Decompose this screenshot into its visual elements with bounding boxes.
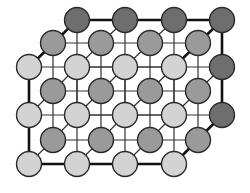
lattice-svg — [0, 0, 250, 193]
atom-middle — [89, 79, 114, 104]
atom-middle — [41, 128, 66, 153]
atom-back — [210, 103, 235, 128]
atom-middle — [89, 31, 114, 56]
atom-back — [113, 8, 138, 33]
atom-middle — [186, 79, 211, 104]
atom-middle — [186, 128, 211, 153]
atom-front — [162, 55, 187, 80]
atom-front — [65, 55, 90, 80]
atom-front — [162, 103, 187, 128]
atom-middle — [138, 128, 163, 153]
atom-middle — [41, 31, 66, 56]
atom-front — [113, 55, 138, 80]
atom-front — [113, 152, 138, 177]
atom-back — [210, 55, 235, 80]
atom-middle — [186, 31, 211, 56]
atom-front — [17, 55, 42, 80]
atom-back — [162, 8, 187, 33]
atom-middle — [138, 79, 163, 104]
atom-middle — [89, 128, 114, 153]
atom-front — [17, 152, 42, 177]
atom-back — [210, 8, 235, 33]
atom-back — [65, 8, 90, 33]
lattice-diagram — [0, 0, 250, 193]
atom-front — [65, 103, 90, 128]
atom-front — [17, 103, 42, 128]
atom-front — [65, 152, 90, 177]
atom-front — [162, 152, 187, 177]
atom-front — [113, 103, 138, 128]
atom-middle — [138, 31, 163, 56]
atom-middle — [41, 79, 66, 104]
